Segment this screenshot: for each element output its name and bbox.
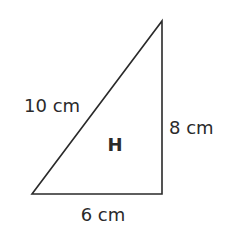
- height-label: 8 cm: [169, 117, 214, 138]
- base-label: 6 cm: [81, 204, 126, 225]
- hypotenuse-label: 10 cm: [24, 95, 80, 116]
- triangle-diagram: 10 cm 8 cm 6 cm H: [0, 0, 228, 233]
- diagram-canvas: 10 cm 8 cm 6 cm H: [0, 0, 228, 233]
- triangle-name-label: H: [107, 134, 122, 155]
